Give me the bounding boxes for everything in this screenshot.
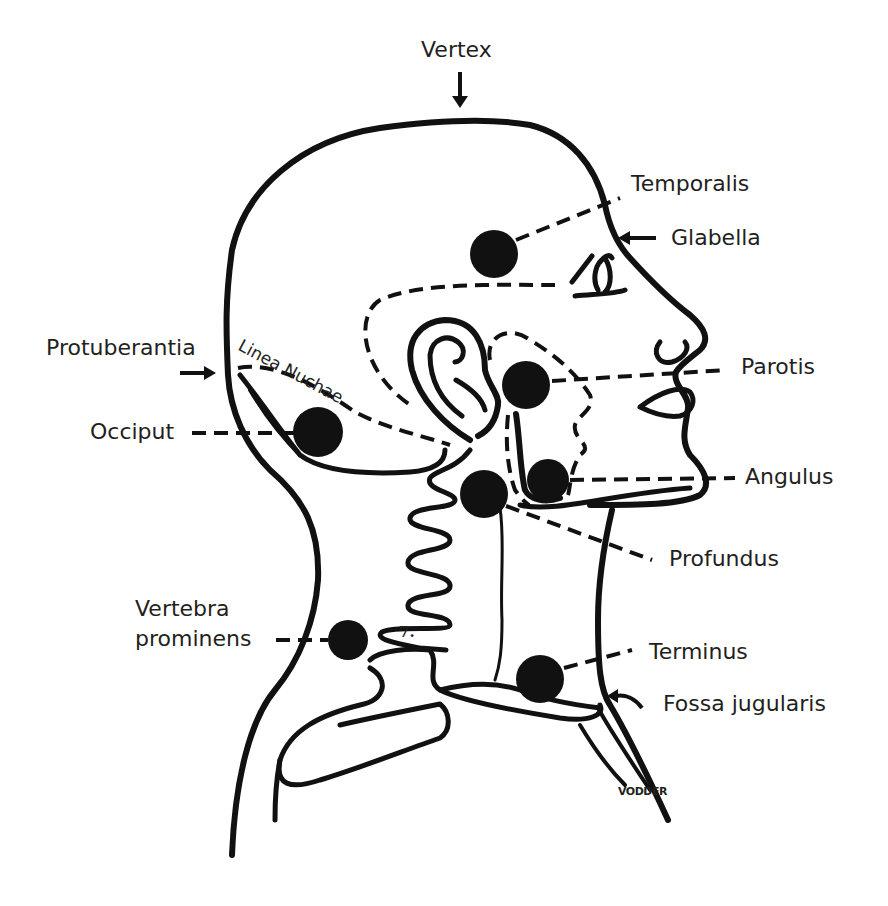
head-neck-lymph-diagram: Vertex Temporalis Glabella Protuberantia… bbox=[0, 0, 888, 906]
nostril bbox=[656, 342, 686, 362]
label-vertex: Vertex bbox=[421, 38, 492, 62]
protuberantia-arrow-icon bbox=[180, 366, 216, 380]
label-angulus: Angulus bbox=[745, 465, 833, 489]
scapula bbox=[279, 668, 448, 785]
leader-temporalis bbox=[516, 198, 620, 240]
label-occiput: Occiput bbox=[90, 420, 174, 444]
label-terminus: Terminus bbox=[649, 640, 748, 664]
front-neck-outline bbox=[598, 510, 668, 820]
node-temporalis bbox=[470, 230, 518, 278]
eyebrow bbox=[572, 256, 592, 282]
cervical-spine bbox=[380, 450, 470, 650]
label-parotis: Parotis bbox=[741, 355, 815, 379]
chest-line bbox=[580, 708, 650, 790]
ear-lobe-curve bbox=[456, 380, 485, 410]
node-terminus bbox=[516, 655, 564, 703]
upper-arm-line bbox=[275, 760, 280, 820]
vertebra-number: 7. bbox=[399, 624, 415, 641]
eye bbox=[575, 256, 625, 296]
label-temporalis: Temporalis bbox=[631, 172, 749, 196]
label-vertebra-prominens-line2: prominens bbox=[135, 627, 251, 651]
label-protuberantia: Protuberantia bbox=[46, 336, 196, 360]
vertex-arrow-icon bbox=[452, 72, 468, 108]
label-profundus: Profundus bbox=[669, 547, 779, 571]
node-profundus bbox=[460, 470, 508, 518]
leader-parotis bbox=[552, 370, 727, 381]
node-vertebra-prominens bbox=[328, 620, 368, 660]
jugular-line bbox=[495, 508, 502, 680]
label-glabella: Glabella bbox=[671, 226, 761, 250]
label-vertebra-prominens-line1: Vertebra bbox=[135, 597, 230, 621]
leader-angulus bbox=[570, 478, 735, 480]
leader-profundus bbox=[506, 506, 652, 560]
trapezius-shoulder bbox=[370, 649, 600, 708]
ear-inner bbox=[430, 338, 463, 416]
label-fossa-jugularis: Fossa jugularis bbox=[663, 692, 826, 716]
node-parotis bbox=[502, 361, 550, 409]
glabella-arrow-icon bbox=[618, 231, 656, 245]
node-angulus bbox=[527, 459, 569, 501]
artist-signature: VODDER bbox=[618, 786, 667, 798]
node-occiput bbox=[293, 407, 343, 457]
anatomy-drawing bbox=[0, 0, 888, 906]
